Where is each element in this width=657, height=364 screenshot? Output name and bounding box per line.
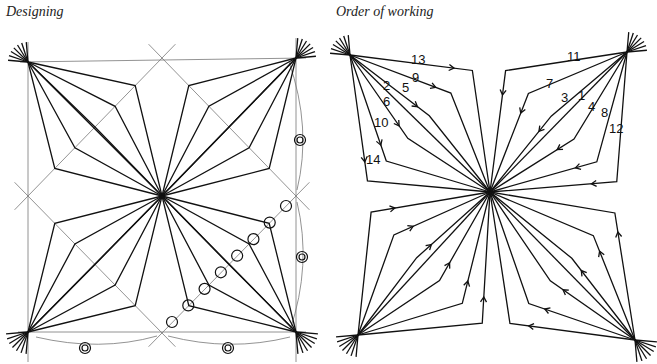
- construction-arc: [290, 202, 303, 330]
- order-number-label: 2: [383, 78, 390, 93]
- string-art-diagram: 1234567891011121314: [0, 0, 657, 364]
- double-circle-icon: [297, 137, 303, 143]
- double-circle-icon: [299, 254, 305, 260]
- order-number-label: 7: [546, 76, 553, 91]
- string-path: [490, 52, 627, 192]
- order-number-label: 12: [609, 121, 623, 136]
- double-circle-icon: [82, 345, 88, 351]
- order-number-label: 8: [601, 105, 608, 120]
- order-number-label: 10: [374, 115, 388, 130]
- order-number-label: 6: [383, 94, 390, 109]
- order-number-label: 5: [402, 80, 409, 95]
- designing-panel: [6, 38, 318, 362]
- order-number-label: 3: [561, 90, 568, 105]
- order-number-label: 1: [578, 88, 585, 103]
- construction-arc: [36, 336, 157, 344]
- divider-circle-icon: [167, 317, 178, 328]
- order-number-label: 13: [411, 52, 425, 67]
- string-path: [490, 192, 635, 340]
- order-number-label: 4: [588, 99, 595, 114]
- order-number-label: 9: [412, 70, 419, 85]
- order-number-label: 14: [366, 152, 380, 167]
- order-number-label: 11: [567, 49, 581, 64]
- string-path: [28, 62, 162, 196]
- divider-circle-icon: [199, 283, 210, 294]
- string-path: [358, 192, 490, 335]
- double-circle-icon: [225, 345, 231, 351]
- order-of-working-panel: 1234567891011121314: [330, 32, 657, 362]
- double-circle-icon: [297, 252, 308, 263]
